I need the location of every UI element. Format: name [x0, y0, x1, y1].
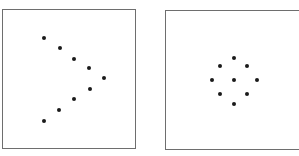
dot-marker	[58, 46, 62, 50]
dot-marker	[232, 102, 236, 106]
dot-marker	[42, 36, 46, 40]
dot-marker	[218, 64, 222, 68]
dot-marker	[218, 92, 222, 96]
dot-marker	[255, 78, 259, 82]
dot-marker	[245, 64, 249, 68]
dot-marker	[232, 78, 236, 82]
dot-marker	[72, 97, 76, 101]
dot-marker	[72, 57, 76, 61]
dot-marker	[232, 56, 236, 60]
dot-marker	[57, 108, 61, 112]
dot-marker	[245, 92, 249, 96]
dot-marker	[88, 87, 92, 91]
dot-marker	[210, 78, 214, 82]
dot-marker	[102, 76, 106, 80]
dot-marker	[87, 66, 91, 70]
chevron-dot-panel	[2, 9, 136, 149]
dot-marker	[42, 119, 46, 123]
